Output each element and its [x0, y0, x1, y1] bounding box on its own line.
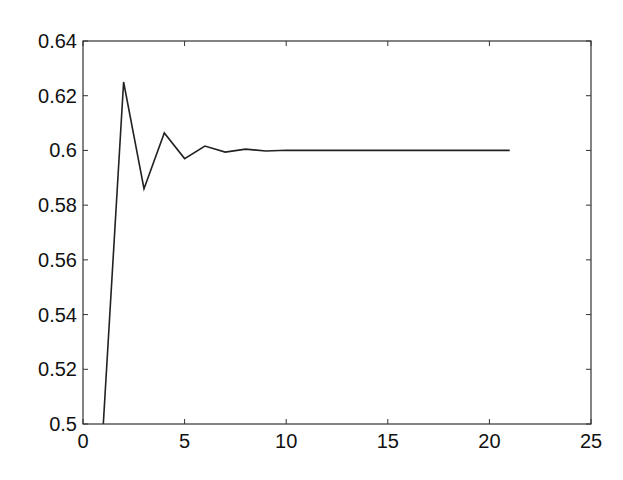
y-tick-label: 0.62 [38, 85, 77, 107]
y-tick-label: 0.58 [38, 194, 77, 216]
x-tick-label: 25 [580, 430, 602, 452]
y-tick-label: 0.6 [49, 139, 77, 161]
y-axis-tick-labels: 0.50.520.540.560.580.60.620.64 [38, 30, 77, 435]
plot-area [83, 41, 591, 424]
y-tick-label: 0.54 [38, 304, 77, 326]
x-tick-label: 20 [478, 430, 500, 452]
line-chart: 0510152025 0.50.520.540.560.580.60.620.6… [0, 0, 623, 480]
y-tick-label: 0.5 [49, 413, 77, 435]
x-tick-label: 15 [377, 430, 399, 452]
y-tick-label: 0.52 [38, 358, 77, 380]
x-tick-label: 0 [77, 430, 88, 452]
x-axis-tick-labels: 0510152025 [77, 430, 602, 452]
x-tick-label: 10 [275, 430, 297, 452]
y-tick-label: 0.56 [38, 249, 77, 271]
x-tick-label: 5 [179, 430, 190, 452]
y-tick-label: 0.64 [38, 30, 77, 52]
